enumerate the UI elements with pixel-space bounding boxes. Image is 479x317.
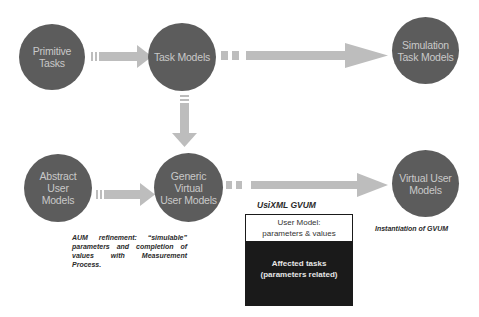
arrow-task-models-to-generic xyxy=(172,95,197,147)
gvum-box-user-model: User Model: parameters & values xyxy=(246,215,352,241)
node-virtual-user-models: Virtual User Models xyxy=(392,150,459,217)
node-label: Task Models xyxy=(150,51,214,63)
instantiation-note: Instantiation of GVUM xyxy=(375,225,448,232)
gvum-box-top-line2: parameters & values xyxy=(246,228,352,239)
node-label: Generic Virtual xyxy=(154,170,223,194)
arrow-abstract-to-generic xyxy=(96,183,155,206)
gvum-box-top-line1: User Model: xyxy=(246,217,352,228)
node-task-models: Task Models xyxy=(148,23,216,91)
node-abstract-user-models: Abstract User Models xyxy=(24,154,92,222)
node-label: Virtual User xyxy=(395,172,455,184)
node-label: Abstract User xyxy=(24,170,92,194)
node-label: Task Models xyxy=(393,51,457,63)
aum-refinement-note: AUM refinement: “simulable” parameters a… xyxy=(72,233,187,269)
node-label: Simulation xyxy=(393,39,457,51)
node-label: Primitive xyxy=(29,45,75,57)
node-primitive-tasks: Primitive Tasks xyxy=(19,24,85,90)
node-label: Models xyxy=(24,194,92,206)
gvum-box: User Model: parameters & values Affected… xyxy=(245,214,353,306)
arrow-task-models-to-simulation xyxy=(221,43,388,68)
usixml-gvum-title: UsiXML GVUM xyxy=(257,200,316,210)
arrow-primitive-to-task-models xyxy=(91,45,152,68)
node-label: Models xyxy=(395,184,455,196)
node-generic-virtual-user-models: Generic Virtual User Models xyxy=(154,153,223,222)
node-label: Tasks xyxy=(29,57,75,69)
gvum-box-bottom-line1: Affected tasks xyxy=(246,258,352,269)
arrow-generic-to-virtual xyxy=(226,173,388,197)
gvum-box-affected-tasks: Affected tasks (parameters related) xyxy=(246,241,352,280)
node-label: User Models xyxy=(154,194,223,206)
gvum-box-bottom-line2: (parameters related) xyxy=(246,269,352,280)
node-simulation-task-models: Simulation Task Models xyxy=(392,17,459,84)
